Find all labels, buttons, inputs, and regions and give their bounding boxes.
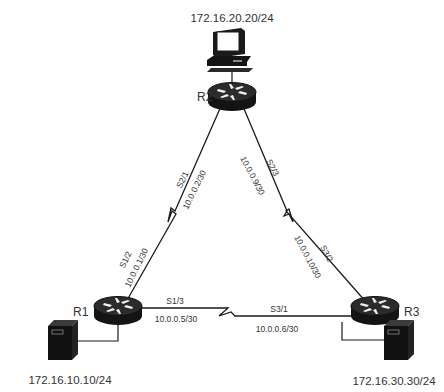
server1-ip-label: 172.16.10.10/24: [28, 374, 112, 386]
ip-label-r2-s2-3: 10.0.0.9/30: [238, 154, 267, 196]
ip-label-r3-s3-1: 10.0.0.6/30: [256, 324, 299, 334]
pc-icon: [207, 28, 253, 72]
router-r1-icon: [94, 297, 142, 326]
router-r3-label: R3: [404, 305, 420, 319]
serial-link-r1-r2: [126, 104, 222, 302]
server-icon: [48, 320, 78, 360]
interface-label-r3-s3-2: S3/2: [318, 244, 335, 264]
server-icon: [384, 320, 414, 360]
serial-link-r2-r3: [242, 104, 366, 302]
interface-label-r3-s3-1: S3/1: [270, 304, 288, 314]
ip-label-r3-s3-2: 10.0.0.10/30: [292, 233, 323, 280]
pc-ip-label: 172.16.20.20/24: [190, 12, 274, 24]
interface-label-r2-s2-3: S2/3: [264, 158, 281, 178]
server3-ip-label: 172.16.30.30/24: [352, 375, 436, 387]
router-r2-label: R2: [197, 90, 213, 104]
network-diagram: 172.16.20.20/24 R2 R1 R3 172.16.10.10/24…: [0, 0, 444, 392]
router-r1-label: R1: [73, 305, 89, 319]
r1-server-link: [75, 322, 118, 341]
interface-label-r1-s1-3: S1/3: [166, 296, 184, 306]
ip-label-r1-s1-3: 10.0.0.5/30: [155, 314, 198, 324]
router-r2-icon: [208, 83, 256, 112]
